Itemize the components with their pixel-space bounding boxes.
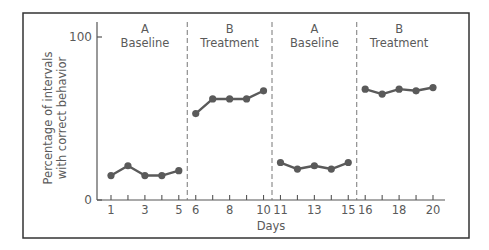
x-tick-label: 11: [273, 203, 288, 217]
data-point: [277, 159, 284, 166]
data-point: [192, 110, 199, 117]
data-point: [429, 84, 436, 91]
x-tick-label: 13: [307, 203, 322, 217]
x-tick-label: 6: [192, 203, 199, 217]
data-point: [260, 87, 267, 94]
phase-name: Treatment: [199, 36, 259, 50]
x-tick-label: 5: [175, 203, 182, 217]
data-point: [396, 86, 403, 93]
phase-letter: B: [395, 22, 403, 36]
x-tick-label: 20: [426, 203, 441, 217]
x-axis-label: Days: [257, 219, 286, 233]
data-point: [158, 172, 165, 179]
data-point: [107, 172, 114, 179]
data-point: [362, 86, 369, 93]
phase-letter: B: [226, 22, 234, 36]
x-tick-label: 18: [392, 203, 407, 217]
y-tick-label: 100: [69, 30, 92, 44]
data-point: [345, 159, 352, 166]
data-point: [379, 90, 386, 97]
data-point: [243, 95, 250, 102]
data-point: [175, 167, 182, 174]
phase-name: Treatment: [369, 36, 429, 50]
data-point: [124, 162, 131, 169]
x-tick-label: 8: [226, 203, 233, 217]
data-point: [412, 87, 419, 94]
data-point: [294, 165, 301, 172]
y-tick-label: 0: [84, 193, 92, 207]
abab-reversal-chart: 01001356810111315161820 ABaselineBTreatm…: [0, 0, 489, 250]
phase-name: Baseline: [290, 36, 339, 50]
x-tick-label: 1: [107, 203, 114, 217]
svg-text:Percentage of intervalswith co: Percentage of intervalswith correct beha…: [41, 52, 69, 185]
data-point: [141, 172, 148, 179]
data-point: [209, 95, 216, 102]
x-tick-label: 10: [256, 203, 271, 217]
phase-name: Baseline: [121, 36, 170, 50]
x-tick-label: 15: [341, 203, 356, 217]
data-point: [311, 162, 318, 169]
y-axis-label: Percentage of intervalswith correct beha…: [41, 52, 69, 185]
data-point: [226, 95, 233, 102]
phase-letter: A: [141, 22, 149, 36]
x-tick-label: 3: [141, 203, 148, 217]
x-tick-label: 16: [358, 203, 373, 217]
phase-letter: A: [310, 22, 318, 36]
data-point: [328, 165, 335, 172]
